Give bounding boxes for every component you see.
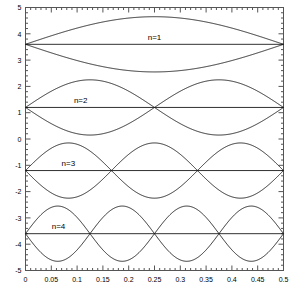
- mode-label-n4: n=4: [52, 222, 66, 231]
- y-tick-label: -4: [15, 241, 21, 248]
- x-tick-label: 0.35: [199, 276, 213, 283]
- y-tick-label: 2: [18, 83, 22, 90]
- x-tick-label: 0.05: [44, 276, 58, 283]
- x-tick-label: 0.45: [251, 276, 265, 283]
- y-tick-label: -1: [15, 162, 21, 169]
- x-tick-label: 0.2: [124, 276, 134, 283]
- y-tick-label: -3: [15, 215, 21, 222]
- y-tick-label: -2: [15, 188, 21, 195]
- y-tick-label: 4: [18, 31, 22, 38]
- chart-canvas: 00.050.10.150.20.250.30.350.40.450.5 -5-…: [0, 0, 293, 289]
- x-tick-label: 0.4: [227, 276, 237, 283]
- x-tick-label: 0.3: [175, 276, 185, 283]
- y-tick-label: 1: [18, 109, 22, 116]
- mode-label-n1: n=1: [148, 33, 162, 42]
- x-tick-label: 0: [24, 276, 28, 283]
- x-tick-label: 0.5: [279, 276, 289, 283]
- x-tick-label: 0.25: [148, 276, 162, 283]
- x-tick-label: 0.1: [72, 276, 82, 283]
- mode-label-n3: n=3: [62, 159, 76, 168]
- y-tick-label: 3: [18, 57, 22, 64]
- mode-label-n2: n=2: [74, 96, 88, 105]
- y-tick-label: 0: [18, 136, 22, 143]
- x-tick-label: 0.15: [96, 276, 110, 283]
- y-tick-label: 5: [18, 4, 22, 11]
- standing-wave-chart: 00.050.10.150.20.250.30.350.40.450.5 -5-…: [0, 0, 293, 289]
- y-tick-label: -5: [15, 267, 21, 274]
